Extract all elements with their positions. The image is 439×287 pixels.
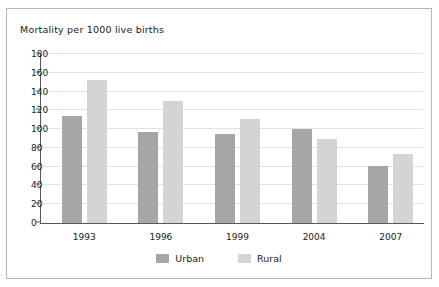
bar-urban-2004 <box>292 129 312 223</box>
y-axis-tick-mark <box>36 184 40 185</box>
y-axis-tick-mark <box>36 165 40 166</box>
bar-group: 1999 <box>215 54 260 223</box>
legend-swatch-icon <box>156 254 169 263</box>
y-axis-tick-mark <box>36 71 40 72</box>
y-axis-tick-mark <box>36 90 40 91</box>
y-axis-tick-label: 60 <box>31 162 33 172</box>
legend-label: Urban <box>175 253 204 264</box>
bar-group: 2004 <box>292 54 337 223</box>
x-axis-tick-label: 1999 <box>215 232 260 242</box>
bar-urban-1996 <box>138 132 158 223</box>
legend-label: Rural <box>257 253 282 264</box>
y-axis-tick-mark <box>36 53 40 54</box>
y-axis-tick-mark <box>36 146 40 147</box>
legend-item-urban[interactable]: Urban <box>156 253 204 264</box>
bar-group: 1993 <box>62 54 107 223</box>
y-axis-tick-label: 20 <box>31 199 33 209</box>
bar-rural-1993 <box>87 80 107 223</box>
y-axis-tick-label: 80 <box>31 143 33 153</box>
bar-urban-1999 <box>215 134 235 223</box>
x-axis-tick-label: 2004 <box>292 232 337 242</box>
chart-legend: UrbanRural <box>7 253 431 264</box>
x-axis-line <box>40 223 424 224</box>
x-axis-tick-label: 1996 <box>138 232 183 242</box>
y-axis-tick-label: 100 <box>31 124 33 134</box>
y-axis-tick-mark <box>36 203 40 204</box>
y-axis-tick-label: 140 <box>31 87 33 97</box>
bar-rural-1996 <box>163 101 183 223</box>
bar-rural-1999 <box>240 119 260 223</box>
bar-group: 1996 <box>138 54 183 223</box>
chart-figure: Mortality per 1000 live births 020406080… <box>6 8 432 279</box>
x-axis-tick-label: 2007 <box>368 232 413 242</box>
y-axis-tick-label: 0 <box>31 218 33 228</box>
bar-urban-2007 <box>368 166 388 223</box>
bar-group: 2007 <box>368 54 413 223</box>
y-axis-tick-mark <box>36 128 40 129</box>
plot-area: 020406080100120140160180 199319961999200… <box>40 54 423 223</box>
chart-title: Mortality per 1000 live births <box>20 24 164 35</box>
y-axis-tick-label: 40 <box>31 180 33 190</box>
bar-urban-1993 <box>62 116 82 223</box>
legend-item-rural[interactable]: Rural <box>238 253 282 264</box>
x-axis-tick-label: 1993 <box>62 232 107 242</box>
y-axis-tick-label: 120 <box>31 105 33 115</box>
y-axis-tick-label: 160 <box>31 68 33 78</box>
y-axis-tick-mark <box>36 109 40 110</box>
bar-rural-2004 <box>317 139 337 223</box>
y-axis-tick-label: 180 <box>31 49 33 59</box>
y-axis-tick-mark <box>36 222 40 223</box>
legend-swatch-icon <box>238 254 251 263</box>
bar-rural-2007 <box>393 154 413 223</box>
